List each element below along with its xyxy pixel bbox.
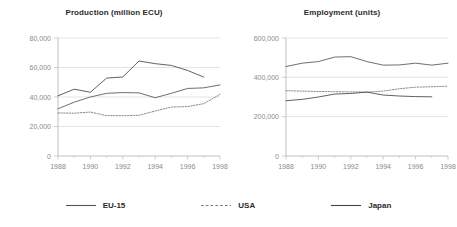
xtick-label: 1994: [147, 163, 163, 170]
xtick-label: 1988: [278, 163, 294, 170]
xtick-label: 1996: [408, 163, 424, 170]
series-line-usa: [286, 86, 448, 92]
xtick-label: 1988: [50, 163, 66, 170]
ytick-label: 40,000: [30, 94, 52, 101]
ytick-label: 200,000: [254, 113, 279, 120]
ytick-label: 0: [275, 153, 279, 160]
ytick-label: 400,000: [254, 74, 279, 81]
series-line-eu-15: [286, 57, 448, 67]
legend-swatch-japan: [331, 201, 361, 210]
xtick-label: 1990: [83, 163, 99, 170]
series-line-usa: [58, 94, 220, 115]
chart-panel-employment: Employment (units) 0200,000400,000600,00…: [228, 0, 456, 190]
legend-label-usa: USA: [238, 201, 255, 210]
ytick-label: 80,000: [30, 35, 52, 42]
xtick-label: 1992: [343, 163, 359, 170]
figure-two-line-charts: Production (million ECU) 020,00040,00060…: [0, 0, 457, 227]
series-line-japan: [58, 61, 204, 96]
chart-legend: EU-15 USA Japan: [0, 191, 457, 219]
legend-swatch-usa: [201, 201, 231, 210]
legend-item-japan: Japan: [331, 201, 391, 210]
ytick-label: 60,000: [30, 64, 52, 71]
ytick-label: 20,000: [30, 123, 52, 130]
legend-item-eu15: EU-15: [66, 201, 126, 210]
xtick-label: 1990: [311, 163, 327, 170]
series-line-japan: [286, 92, 432, 101]
ytick-label: 0: [47, 153, 51, 160]
chart-panels: Production (million ECU) 020,00040,00060…: [0, 0, 457, 190]
chart-panel-production: Production (million ECU) 020,00040,00060…: [0, 0, 228, 190]
xtick-label: 1996: [180, 163, 196, 170]
xtick-label: 1994: [375, 163, 391, 170]
ytick-label: 600,000: [254, 35, 279, 42]
legend-label-japan: Japan: [368, 201, 391, 210]
xtick-label: 1998: [212, 163, 228, 170]
xtick-label: 1998: [440, 163, 456, 170]
xtick-label: 1992: [115, 163, 131, 170]
legend-swatch-eu15: [66, 201, 96, 210]
plot-area-employment: 0200,000400,000600,000198819901992199419…: [228, 0, 456, 190]
legend-item-usa: USA: [201, 201, 255, 210]
plot-area-production: 020,00040,00060,00080,000198819901992199…: [0, 0, 228, 190]
legend-label-eu15: EU-15: [103, 201, 126, 210]
